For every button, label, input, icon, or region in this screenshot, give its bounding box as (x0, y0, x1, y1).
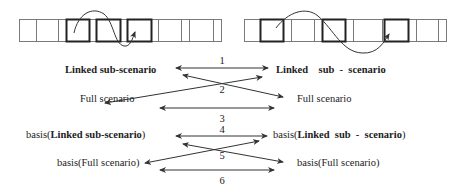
memory-cell (59, 20, 67, 42)
left-linked-sub-scenario-label: basis(Linked sub-scenario) (26, 129, 145, 141)
memory-cell (190, 20, 214, 42)
highlighted-memory-cell (323, 20, 346, 42)
memory-cell (346, 20, 354, 42)
memory-cell (439, 20, 447, 42)
double-arrow (183, 75, 283, 97)
double-arrow (145, 141, 259, 163)
relation-number-label: 5 (216, 150, 228, 162)
relation-arrows (105, 68, 283, 170)
relation-number-label: 2 (216, 84, 228, 96)
memory-cell (409, 20, 417, 42)
relation-number-label: 6 (216, 175, 228, 187)
memory-cell (292, 20, 315, 42)
right-linked-sub-scenario-label: Linked sub - scenario (276, 64, 386, 76)
right-linked-sub-scenario-label: basis(Linked sub - scenario) (273, 129, 405, 141)
relation-number-label: 4 (216, 124, 228, 136)
left-linked-sub-scenario-label: Linked sub-scenario (65, 64, 156, 76)
memory-strips (20, 11, 447, 53)
memory-cell (90, 20, 97, 42)
memory-cell (354, 20, 383, 42)
highlighted-memory-cell (128, 20, 152, 42)
highlighted-memory-cell (385, 20, 409, 42)
right-strip (245, 11, 447, 53)
memory-cell (152, 20, 159, 42)
left-full-scenario-label: basis(Full scenario) (57, 157, 140, 169)
memory-cell (121, 20, 128, 42)
memory-cell (20, 20, 37, 42)
left-strip (20, 11, 222, 46)
link-curve-arrow (276, 11, 389, 53)
memory-cell (159, 20, 182, 42)
memory-cell (284, 20, 292, 42)
memory-cell (182, 20, 190, 42)
memory-cell (214, 20, 222, 42)
memory-cell (417, 20, 439, 42)
right-full-scenario-label: basis(Full scenario) (297, 157, 380, 169)
memory-cell (315, 20, 323, 42)
left-full-scenario-label: Full scenario (80, 93, 135, 105)
right-full-scenario-label: Full scenario (297, 93, 352, 105)
relation-number-label: 1 (216, 55, 228, 67)
memory-cell (245, 20, 261, 42)
memory-cell (37, 20, 59, 42)
